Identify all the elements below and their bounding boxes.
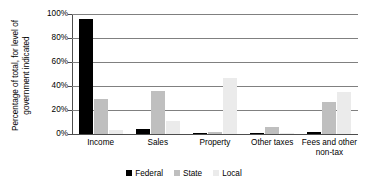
y-axis-tick-labels: 0%20%40%60%80%100% <box>0 0 68 186</box>
legend-item-federal[interactable]: Federal <box>126 169 163 178</box>
bar-federal-income <box>79 19 93 134</box>
bar-state-property <box>208 132 222 134</box>
bar-state-other-taxes <box>265 127 279 134</box>
legend-label: State <box>183 169 202 178</box>
legend-label: Federal <box>135 169 163 178</box>
legend-swatch-local-icon <box>213 170 219 176</box>
bar-group <box>72 14 129 134</box>
legend-label: Local <box>222 169 242 178</box>
y-tick-label: 40% <box>6 82 68 90</box>
y-tick-label: 80% <box>6 34 68 42</box>
legend: FederalStateLocal <box>0 166 368 180</box>
bar-federal-sales <box>136 129 150 134</box>
legend-item-local[interactable]: Local <box>213 169 242 178</box>
bar-state-income <box>94 99 108 134</box>
bar-state-sales <box>151 91 165 134</box>
bar-local-fees-and-other-non-tax <box>337 92 351 134</box>
bar-federal-property <box>193 133 207 134</box>
bar-federal-fees-and-other-non-tax <box>307 132 321 134</box>
bar-local-property <box>223 78 237 134</box>
y-tick-label: 0% <box>6 130 68 138</box>
x-axis-label-line-1: Property <box>200 138 231 147</box>
x-axis-label-line-2: non-tax <box>293 148 366 158</box>
bars-layer <box>72 14 358 134</box>
x-axis-label-line-1: Other taxes <box>251 138 293 147</box>
y-tick-label: 20% <box>6 106 68 114</box>
x-axis-label-fees-and-other-non-tax: Fees and othernon-tax <box>293 138 366 158</box>
bar-group <box>301 14 358 134</box>
y-tick-label: 60% <box>6 58 68 66</box>
x-axis-label-line-1: Fees and other <box>302 138 357 147</box>
legend-item-state[interactable]: State <box>174 169 202 178</box>
bar-local-other-taxes <box>280 133 294 134</box>
legend-swatch-state-icon <box>174 170 180 176</box>
bar-federal-other-taxes <box>250 133 264 134</box>
bar-state-fees-and-other-non-tax <box>322 102 336 134</box>
gridline-0% <box>72 134 358 135</box>
bar-chart: Percentage of total, for level of govern… <box>0 0 368 186</box>
bar-group <box>244 14 301 134</box>
bar-group <box>186 14 243 134</box>
x-axis-label-line-1: Income <box>87 138 114 147</box>
legend-swatch-federal-icon <box>126 170 132 176</box>
x-axis-labels: IncomeSalesPropertyOther taxesFees and o… <box>72 138 358 164</box>
bar-group <box>129 14 186 134</box>
bar-local-sales <box>166 121 180 134</box>
bar-local-income <box>109 130 123 134</box>
x-axis-label-line-1: Sales <box>148 138 168 147</box>
y-tick-label: 100% <box>6 10 68 18</box>
